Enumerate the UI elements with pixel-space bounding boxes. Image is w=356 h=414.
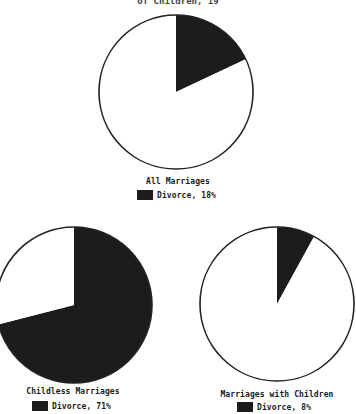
pie-childless-marriages — [0, 227, 152, 383]
legend-label-all-marriages: Divorce, 18% — [157, 190, 216, 200]
legend-swatch-divorce — [237, 402, 253, 412]
pie-all-marriages — [99, 15, 253, 169]
pie-label-marriages-with-children: Marriages with Children — [220, 389, 333, 399]
pie-label-all-marriages: All Marriages — [146, 176, 210, 186]
legend-swatch-divorce — [32, 401, 48, 411]
legend-label-childless-marriages: Divorce, 71% — [52, 401, 111, 411]
chart-title: of Children, 19 — [137, 0, 218, 6]
pie-marriages-with-children — [200, 227, 354, 381]
pie-label-childless-marriages: Childless Marriages — [26, 386, 119, 396]
pie-charts-figure: of Children, 19 All Marriages Divorce, 1… — [0, 0, 356, 414]
legend-label-marriages-with-children: Divorce, 8% — [257, 402, 311, 412]
legend-swatch-divorce — [137, 190, 153, 200]
